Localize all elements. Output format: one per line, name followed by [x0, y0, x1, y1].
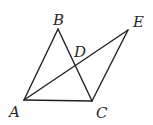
segment-AC	[24, 100, 92, 101]
segments	[24, 29, 128, 101]
segment-AE	[24, 30, 128, 100]
label-D: D	[73, 43, 86, 61]
label-A: A	[7, 103, 20, 121]
label-B: B	[52, 11, 64, 29]
label-C: C	[96, 104, 108, 122]
segment-CE	[92, 30, 128, 101]
geometry-diagram: A B C D E	[0, 0, 153, 125]
label-E: E	[132, 13, 144, 31]
